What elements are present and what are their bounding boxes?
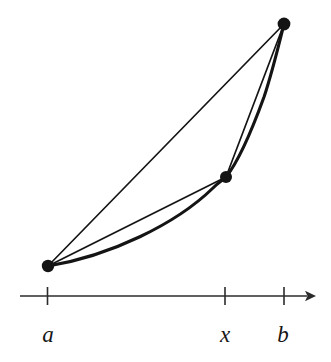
chord-a-to-x <box>48 177 226 266</box>
point-b-marker <box>278 18 291 31</box>
axis-label-a: a <box>42 322 54 347</box>
point-x-marker <box>220 171 232 183</box>
point-a-marker <box>42 260 54 272</box>
axis-label-b: b <box>277 322 289 347</box>
chord-x-to-b <box>226 24 284 177</box>
chord-a-to-b <box>48 24 284 266</box>
figure-canvas: a x b <box>0 0 331 362</box>
axis-label-x: x <box>219 322 231 347</box>
convex-function-diagram: a x b <box>0 0 331 362</box>
